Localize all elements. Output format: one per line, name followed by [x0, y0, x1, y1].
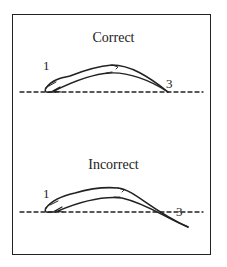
diagram-art — [0, 0, 227, 267]
trajectory-loop-start — [45, 208, 56, 212]
correct-panel — [20, 65, 203, 92]
trajectory-outer-arc — [46, 65, 168, 92]
incorrect-panel — [20, 188, 203, 227]
